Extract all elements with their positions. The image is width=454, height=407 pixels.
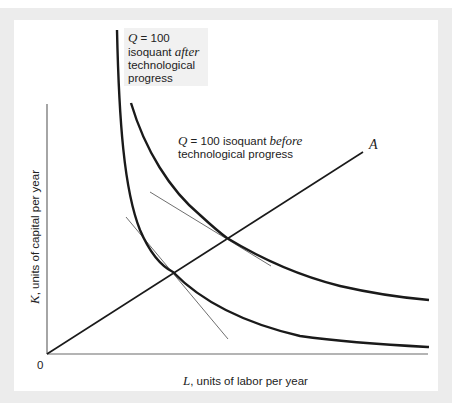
y-variable: K — [27, 295, 42, 304]
q-symbol: Q — [178, 133, 187, 148]
q-symbol: Q — [128, 30, 137, 45]
x-axis-label: L, units of labor per year — [183, 374, 308, 388]
y-axis-label: K, units of capital per year — [28, 142, 42, 332]
before-text-line2: technological progress — [178, 148, 302, 161]
isoquant-chart — [0, 0, 454, 407]
x-axis-text: , units of labor per year — [190, 375, 308, 387]
after-label: Q = 100 isoquant after technological pro… — [128, 31, 199, 85]
after-text-line3: technological — [128, 59, 199, 72]
ray-label: A — [369, 138, 378, 151]
before-emphasis: before — [270, 133, 303, 148]
before-label: Q = 100 isoquant before technological pr… — [178, 134, 302, 161]
y-axis-text: , units of capital per year — [29, 170, 41, 295]
after-text-line4: progress — [128, 72, 199, 85]
after-text: isoquant — [128, 46, 175, 58]
ray-a — [47, 152, 363, 354]
after-emphasis: after — [175, 44, 200, 59]
q-value: = 100 — [137, 32, 169, 44]
origin-label: 0 — [37, 359, 43, 372]
tangent-line-before — [150, 192, 271, 266]
before-text: = 100 isoquant — [187, 135, 269, 147]
